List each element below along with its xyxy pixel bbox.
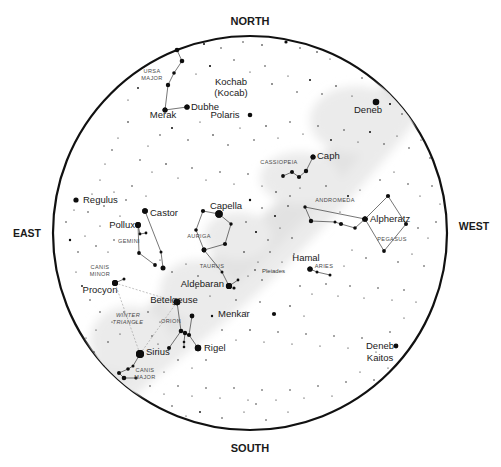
field-star [289,121,290,122]
field-star [163,393,164,394]
field-star [363,297,364,298]
constellation-star [137,251,141,255]
constellation-star [303,205,306,208]
cardinal-west: WEST [459,220,490,232]
star-polaris [248,113,253,118]
field-star [349,285,350,286]
field-star [261,185,262,186]
field-star [359,371,360,372]
field-star [171,127,173,129]
field-star [247,173,248,174]
field-star [177,359,178,360]
label-cassiopeia: CASSIOPEIA [260,159,297,165]
star-aldebaran [226,283,232,289]
field-star [330,139,332,141]
field-star [243,411,244,412]
label-regulus: Regulus [83,194,118,205]
field-star [107,251,108,252]
field-star [233,387,234,388]
field-star [271,83,273,85]
field-star [337,295,338,296]
constellation-star [237,279,240,282]
field-star [99,179,100,180]
field-star [247,399,248,400]
star-deneb-kaitos [394,344,399,349]
label-andromeda: ANDROMEDA [315,197,355,203]
label-polaris: Polaris [210,109,239,120]
field-star [69,239,71,241]
field-star [99,311,100,312]
field-star [242,41,243,42]
label-pleiades: Pleiades [262,268,285,274]
field-star [191,167,192,168]
star-chart: Kochab(Kocab)DubheMerakPolarisDenebCaphR… [0,0,501,467]
constellation-star [334,221,337,224]
label-caph: Caph [317,150,340,161]
field-star [119,333,120,334]
field-star [357,141,358,142]
field-star [311,293,312,294]
field-star [219,171,220,172]
field-star [325,185,326,186]
field-star [299,47,300,48]
field-star [303,315,304,316]
field-star [139,399,140,400]
field-star [419,99,420,100]
field-star [397,261,398,262]
field-star [137,87,139,89]
field-star [209,295,210,296]
field-star [429,157,430,158]
constellation-star [329,274,332,277]
star-pollux [135,222,141,228]
field-star [403,289,404,290]
field-star [367,54,368,55]
constellation-star [187,333,191,337]
constellation-star [382,249,386,253]
field-star [159,134,160,135]
field-star [199,121,200,122]
field-star [103,205,104,206]
label-kochab: Kochab [215,76,247,87]
field-star [265,419,266,420]
sky-map-svg: Kochab(Kocab)DubheMerakPolarisDenebCaphR… [0,0,501,467]
label-taurus: TAURUS [200,263,225,269]
field-star [275,399,276,400]
label-capella: Capella [210,200,243,211]
field-star [95,245,96,246]
field-star [261,207,262,208]
field-star [84,235,85,236]
constellation-star [132,365,135,368]
field-star [171,405,172,406]
field-star [261,389,262,390]
field-star [309,79,311,81]
field-star [77,251,78,252]
field-star [329,58,330,59]
field-star [289,195,290,196]
constellation-star [316,271,319,274]
field-star [119,215,120,216]
field-star [191,395,192,396]
star-sirius [136,350,144,358]
constellation-star [161,266,166,271]
field-star [191,367,192,368]
constellation-star [190,314,195,319]
field-star [177,385,178,386]
field-star [267,239,268,240]
field-star [147,311,148,312]
field-star [111,149,112,150]
label-canis-minor-1: CANIS [91,264,110,270]
label-sirius: Sirius [146,346,170,357]
star-menkar [272,312,276,316]
label-procyon: Procyon [83,284,118,295]
field-star [345,381,346,382]
field-star [239,127,240,128]
constellation-star [183,331,187,335]
field-star [185,263,186,264]
label-ursa-major-1: URSA [144,68,161,74]
field-star [396,135,397,136]
field-star [389,103,391,105]
field-star [87,211,88,212]
field-star [343,129,344,130]
field-star [321,93,322,94]
field-star [335,85,337,87]
